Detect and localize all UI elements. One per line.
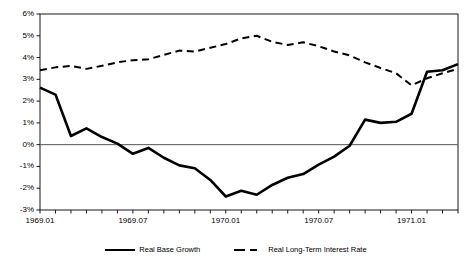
x-axis-tick-label: 1969.01: [10, 217, 70, 225]
y-axis-tick-label: 2%: [2, 97, 34, 105]
y-axis-tick-label: -3%: [2, 206, 34, 214]
plot-frame: [40, 14, 458, 210]
chart-legend: Real Base Growth Real Long-Term Interest…: [0, 243, 472, 257]
y-axis-tick-label: 6%: [2, 10, 34, 18]
y-axis-tick-label: 1%: [2, 119, 34, 127]
series-line-real-long-term-interest-rate: [40, 36, 458, 86]
x-axis-tick-label: 1970.01: [196, 217, 256, 225]
series-line-real-base-growth: [40, 64, 458, 196]
x-axis-ticks: [40, 210, 458, 214]
y-axis-tick-label: 3%: [2, 75, 34, 83]
y-axis-tick-label: 4%: [2, 54, 34, 62]
legend-label-real-long-term-interest-rate: Real Long-Term Interest Rate: [268, 246, 366, 254]
y-axis-tick-label: -2%: [2, 184, 34, 192]
legend-item-real-long-term-interest-rate: Real Long-Term Interest Rate: [234, 246, 366, 255]
y-axis-tick-label: 5%: [2, 32, 34, 40]
legend-label-real-base-growth: Real Base Growth: [139, 246, 200, 254]
x-axis-tick-label: 1971.01: [382, 217, 442, 225]
x-axis-tick-label: 1970.07: [289, 217, 349, 225]
x-axis-tick-label: 1969.07: [103, 217, 163, 225]
y-axis-tick-label: -1%: [2, 162, 34, 170]
chart-container: 6%5%4%3%2%1%0%-1%-2%-3% 1969.011969.0719…: [0, 0, 472, 263]
dashed-line-swatch: [234, 246, 264, 255]
data-series-group: [40, 36, 458, 197]
legend-item-real-base-growth: Real Base Growth: [105, 246, 200, 255]
solid-line-swatch: [105, 246, 135, 255]
y-axis-tick-label: 0%: [2, 141, 34, 149]
y-axis-ticks: [37, 14, 41, 210]
